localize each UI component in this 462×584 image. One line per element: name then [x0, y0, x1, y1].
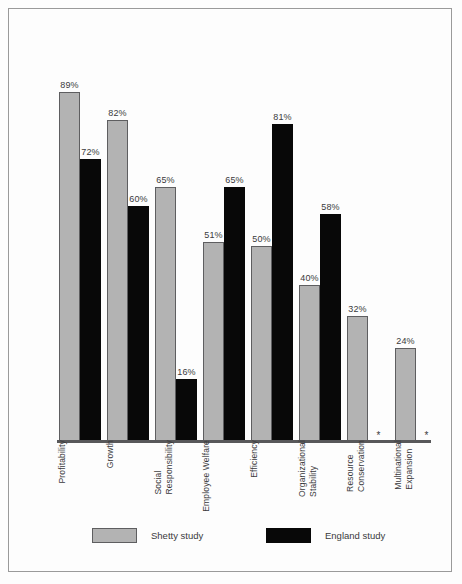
legend-entry-england: England study	[266, 528, 385, 543]
bar-value-label: 58%	[321, 202, 339, 212]
bar-group: 82% 60%	[105, 49, 151, 442]
plot-area: 89% 72% 82% 60% 65%	[57, 49, 431, 442]
category-label-organizational-stability: Organizational Stability	[297, 440, 318, 497]
chart-figure: 89% 72% 82% 60% 65%	[0, 0, 462, 584]
bar-england: 81%	[272, 124, 293, 442]
bar-group: 65% 16%	[153, 49, 199, 442]
category-label-multinational-expansion: Multinational Expansion	[393, 440, 414, 490]
bar-group: 50% 81%	[249, 49, 295, 442]
category-label-profitability: Profitability	[57, 440, 68, 484]
bar-value-label: 24%	[396, 336, 414, 346]
legend-label-shetty: Shetty study	[151, 530, 203, 541]
bar-value-label: 40%	[300, 273, 318, 283]
bar-shetty: 40%	[299, 285, 320, 442]
bar-group: 24% *	[393, 49, 439, 442]
legend-swatch-shetty-icon	[92, 528, 137, 543]
bar-value-label: 65%	[225, 175, 243, 185]
bar-group: 32% *	[345, 49, 391, 442]
bar-value-label: 16%	[177, 367, 195, 377]
bar-shetty: 32%	[347, 316, 368, 442]
bar-value-label: 51%	[204, 230, 222, 240]
bar-value-label: 60%	[129, 194, 147, 204]
bar-value-label: 50%	[252, 234, 270, 244]
bar-england: 72%	[80, 159, 101, 442]
bar-value-label: 89%	[60, 80, 78, 90]
bar-value-label: 72%	[81, 147, 99, 157]
category-label-growth: Growth	[105, 440, 116, 468]
bar-shetty: 82%	[107, 120, 128, 442]
category-label-employee-welfare: Employee Welfare	[201, 440, 212, 512]
bar-england: 60%	[128, 206, 149, 442]
bar-group: 51% 65%	[201, 49, 247, 442]
bar-shetty: 65%	[155, 187, 176, 442]
bar-value-label: 32%	[348, 304, 366, 314]
bar-group: 40% 58%	[297, 49, 343, 442]
legend-label-england: England study	[325, 530, 385, 541]
bar-shetty: 24%	[395, 348, 416, 442]
bar-value-label: 82%	[108, 108, 126, 118]
legend-swatch-england-icon	[266, 528, 311, 543]
bar-group: 89% 72%	[57, 49, 103, 442]
bar-shetty: 51%	[203, 242, 224, 442]
category-label-efficiency: Efficiency	[249, 440, 260, 478]
category-label-resource-conservation: Resource Conservation	[345, 440, 366, 492]
bar-england: 16%	[176, 379, 197, 442]
bar-shetty: 50%	[251, 246, 272, 443]
chart-legend: Shetty study England study	[0, 528, 462, 558]
legend-entry-shetty: Shetty study	[92, 528, 203, 543]
bar-england: 58%	[320, 214, 341, 442]
category-label-social-responsibility: Social Responsibility	[153, 440, 174, 495]
bar-value-label: 65%	[156, 175, 174, 185]
chart-frame: 89% 72% 82% 60% 65%	[8, 8, 452, 572]
bar-england: 65%	[224, 187, 245, 442]
bar-shetty: 89%	[59, 92, 80, 442]
bar-value-label: 81%	[273, 112, 291, 122]
